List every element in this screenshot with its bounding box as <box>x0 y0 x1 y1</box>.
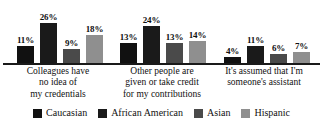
legend-swatch-icon <box>241 109 250 118</box>
bar <box>120 43 137 63</box>
bar-slot: 9% <box>63 0 80 64</box>
bar-group: 4%11%6%7% <box>224 0 310 64</box>
legend-label: African American <box>111 108 183 118</box>
legend-label: Asian <box>207 108 230 118</box>
bar-slot: 11% <box>17 0 34 64</box>
category-axis-labels: Colleagues haveno idea ofmy credentialsO… <box>0 66 323 102</box>
bar-slot: 14% <box>189 0 206 64</box>
bar-slot: 18% <box>86 0 103 64</box>
bar-slot: 11% <box>247 0 264 64</box>
bar <box>270 54 287 63</box>
bar-value-label: 18% <box>86 25 103 34</box>
chart-legend: CaucasianAfrican AmericanAsianHispanic <box>0 106 323 120</box>
bar-value-label: 9% <box>65 39 78 48</box>
category-label-line: Other people are <box>106 66 218 77</box>
legend-swatch-icon <box>98 109 107 118</box>
legend-item[interactable]: Asian <box>194 108 230 118</box>
category-label: Colleagues haveno idea ofmy credentials <box>4 66 112 100</box>
category-label-line: It's assumed that I'm <box>208 66 320 77</box>
bar <box>17 46 34 63</box>
legend-item[interactable]: African American <box>98 108 183 118</box>
bar <box>40 23 57 63</box>
bar-value-label: 13% <box>166 33 183 42</box>
legend-label: Caucasian <box>46 108 87 118</box>
category-label-line: given or take credit <box>106 77 218 88</box>
category-label-line: my credentials <box>4 89 112 100</box>
bar-slot: 6% <box>270 0 287 64</box>
bar-value-label: 26% <box>40 13 57 22</box>
bar-value-label: 13% <box>120 33 137 42</box>
bar <box>143 26 160 63</box>
bar <box>86 35 103 63</box>
bar <box>247 46 264 63</box>
bar-value-label: 14% <box>189 31 206 40</box>
category-label: Other people aregiven or take creditfor … <box>106 66 218 100</box>
bar <box>189 41 206 63</box>
bar-group: 13%24%13%14% <box>120 0 206 64</box>
bar <box>293 52 310 63</box>
category-label-line: Colleagues have <box>4 66 112 77</box>
bar <box>63 49 80 63</box>
category-label: It's assumed that I'msomeone's assistant <box>208 66 320 89</box>
grouped-bar-chart: 11%26%9%18%13%24%13%14%4%11%6%7% Colleag… <box>0 0 323 126</box>
bar-value-label: 7% <box>295 42 308 51</box>
legend-item[interactable]: Hispanic <box>241 108 290 118</box>
bar-slot: 26% <box>40 0 57 64</box>
bar-slot: 7% <box>293 0 310 64</box>
category-label-line: no idea of <box>4 77 112 88</box>
bar-slot: 24% <box>143 0 160 64</box>
bar-value-label: 11% <box>17 36 34 45</box>
bar-slot: 4% <box>224 0 241 64</box>
bar <box>166 43 183 63</box>
x-axis-baseline <box>3 63 320 65</box>
bar-slot: 13% <box>166 0 183 64</box>
bar-value-label: 4% <box>226 47 239 56</box>
bar-group: 11%26%9%18% <box>17 0 103 64</box>
plot-area: 11%26%9%18%13%24%13%14%4%11%6%7% <box>0 0 323 64</box>
category-label-line: for my contributions <box>106 89 218 100</box>
category-label-line: someone's assistant <box>208 77 320 88</box>
bar-value-label: 11% <box>247 36 264 45</box>
bar-value-label: 6% <box>272 44 285 53</box>
legend-swatch-icon <box>194 109 203 118</box>
legend-label: Hispanic <box>254 108 290 118</box>
legend-item[interactable]: Caucasian <box>33 108 87 118</box>
legend-swatch-icon <box>33 109 42 118</box>
bar-slot: 13% <box>120 0 137 64</box>
bar-value-label: 24% <box>143 16 160 25</box>
